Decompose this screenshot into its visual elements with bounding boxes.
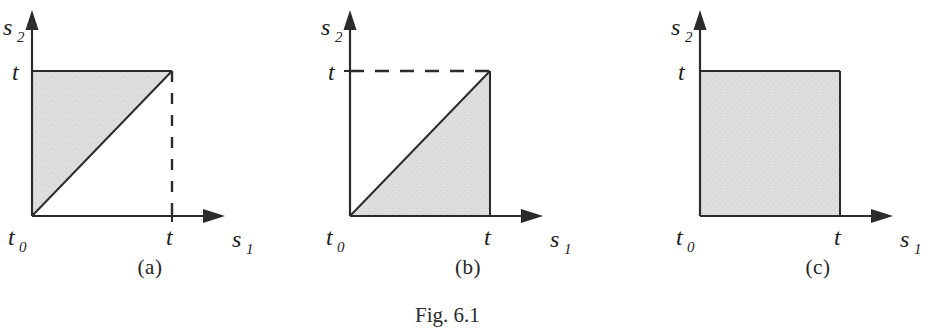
y-axis-arrowhead-a <box>26 10 39 30</box>
panel-a: s 2 s 1 t t 0 t (a) <box>0 0 300 300</box>
y-axis-arrowhead-c <box>694 10 707 30</box>
origin-tick-label-a: t <box>8 224 16 250</box>
y-axis-label-subscript-c: 2 <box>685 29 693 45</box>
figure-caption: Fig. 6.1 <box>0 303 895 328</box>
y-tick-label-b: t <box>328 59 336 85</box>
y-tick-label-a: t <box>12 59 20 85</box>
origin-tick-subscript-c: 0 <box>687 239 695 255</box>
origin-tick-subscript-b: 0 <box>337 239 345 255</box>
x-axis-arrowhead-a <box>203 209 225 223</box>
panel-label-c: (c) <box>668 255 925 280</box>
y-tick-label-c: t <box>678 59 686 85</box>
panel-b: s 2 s 1 t t 0 t (b) <box>318 0 618 300</box>
y-axis-label-b: s <box>321 14 330 40</box>
x-axis-label-a: s <box>232 226 241 252</box>
x-axis-arrowhead-c <box>871 209 893 223</box>
y-axis-label-subscript-a: 2 <box>17 29 25 45</box>
x-tick-label-a: t <box>166 224 174 250</box>
panel-c: s 2 s 1 t t 0 t (c) <box>668 0 925 300</box>
y-axis-arrowhead-b <box>344 10 357 30</box>
origin-tick-label-c: t <box>676 224 684 250</box>
x-axis-arrowhead-b <box>521 209 543 223</box>
y-axis-label-subscript-b: 2 <box>335 29 343 45</box>
x-axis-label-c: s <box>900 226 909 252</box>
y-axis-label-c: s <box>671 14 680 40</box>
shaded-region-c <box>700 71 840 216</box>
x-tick-label-b: t <box>484 224 492 250</box>
origin-tick-label-b: t <box>326 224 334 250</box>
panel-label-a: (a) <box>0 255 300 280</box>
y-axis-label-a: s <box>3 14 12 40</box>
x-axis-label-b: s <box>550 226 559 252</box>
origin-tick-subscript-a: 0 <box>19 239 27 255</box>
x-tick-label-c: t <box>834 224 842 250</box>
panel-label-b: (b) <box>318 255 618 280</box>
